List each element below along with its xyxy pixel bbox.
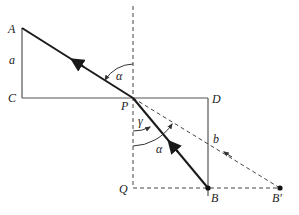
label-angle-alpha-top: α [116, 69, 123, 83]
label-bprime-point: B′ [272, 191, 282, 205]
point-bprime [277, 185, 282, 190]
ray-arrow-lower-icon [172, 145, 178, 152]
label-segment-a: a [9, 53, 15, 67]
label-q-point: Q [119, 182, 128, 196]
label-a-point: A [7, 22, 16, 36]
label-b-point: B [211, 191, 219, 205]
label-c-point: C [8, 91, 17, 105]
ray-arrow-upper-icon [76, 62, 84, 67]
label-segment-b: b [213, 132, 219, 146]
refraction-diagram: A C P D Q B B′ a b α γ α [0, 0, 299, 215]
label-angle-alpha-bottom: α [156, 142, 163, 156]
label-angle-gamma: γ [138, 114, 143, 128]
point-b [205, 185, 210, 190]
label-d-point: D [211, 92, 221, 106]
ray-b-to-p [133, 98, 208, 188]
label-p-point: P [120, 99, 129, 113]
